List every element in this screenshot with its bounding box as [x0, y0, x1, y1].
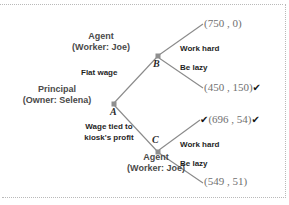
- payoff-b-work-hard: (750 , 0): [204, 17, 242, 29]
- edge-label-profit-wage-line1: Wage tied to: [63, 122, 155, 133]
- payoff-c-be-lazy-value: (549 , 51): [204, 175, 247, 187]
- node-a-player-label: Principal (Owner: Selena): [2, 84, 112, 106]
- node-b-player-line1: Agent: [46, 31, 156, 42]
- payoff-b-be-lazy-value: (450 , 150): [204, 81, 253, 93]
- action-label-c-work-hard: Work hard: [180, 140, 219, 151]
- action-label-c-be-lazy: Be lazy: [180, 159, 208, 170]
- payoff-c-work-hard: ✔(696 , 54)✔: [200, 113, 260, 125]
- edge-label-profit-wage-line2: kiosk's profit: [63, 133, 155, 144]
- edge-label-profit-wage: Wage tied to kiosk's profit: [63, 122, 155, 143]
- node-a-id: A: [110, 106, 117, 117]
- diagram-canvas: Agent (Worker: Joe) Principal (Owner: Se…: [0, 0, 289, 205]
- payoff-c-work-hard-value: (696 , 54): [208, 113, 251, 125]
- payoff-b-be-lazy-check-after: ✔: [253, 82, 261, 93]
- node-b-player-line2: (Worker: Joe): [46, 42, 156, 53]
- edge-label-flat-wage: Flat wage: [81, 68, 117, 79]
- edge-a-to-b: [114, 57, 157, 103]
- node-b-player-label: Agent (Worker: Joe): [46, 31, 156, 53]
- node-a-player-line2: (Owner: Selena): [2, 95, 112, 106]
- node-b-id: B: [153, 58, 160, 69]
- action-label-b-work-hard: Work hard: [180, 44, 219, 55]
- node-a-player-line1: Principal: [2, 84, 112, 95]
- payoff-c-be-lazy: (549 , 51): [204, 175, 247, 187]
- payoff-c-work-hard-check-after: ✔: [251, 114, 259, 125]
- payoff-b-be-lazy: (450 , 150)✔: [204, 81, 261, 93]
- action-label-b-be-lazy: Be lazy: [180, 63, 208, 74]
- payoff-b-work-hard-value: (750 , 0): [204, 17, 242, 29]
